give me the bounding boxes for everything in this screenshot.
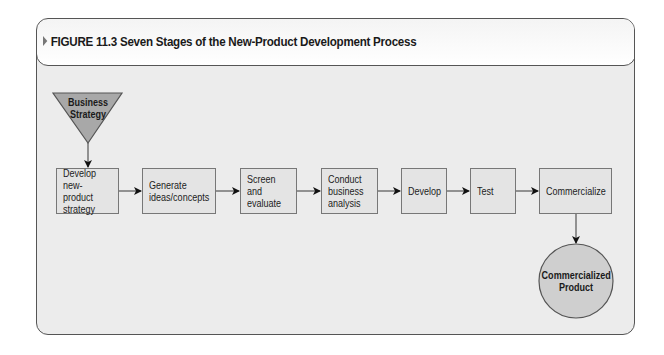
- stage-label: Commercialize: [546, 185, 606, 197]
- stage-develop-strategy: Develop new-product strategy: [56, 168, 119, 214]
- stage-generate-ideas: Generate ideas/concepts: [142, 168, 216, 214]
- stage-commercialize: Commercialize: [539, 168, 612, 214]
- stage-label: Test: [477, 185, 494, 197]
- stage-label: Develop new-product strategy: [63, 167, 110, 215]
- stage-label: Develop: [408, 185, 441, 197]
- stage-screen-evaluate: Screen and evaluate: [240, 168, 297, 214]
- stage-label: Generate ideas/concepts: [149, 179, 209, 203]
- commercialized-product-label: Commercialized Product: [542, 269, 611, 293]
- stage-test: Test: [470, 168, 516, 214]
- business-strategy-label: Business Strategy: [62, 96, 114, 120]
- stage-develop: Develop: [401, 168, 447, 214]
- stage-business-analysis: Conduct business analysis: [321, 168, 378, 214]
- stage-label: Screen and evaluate: [247, 173, 289, 209]
- stage-label: Conduct business analysis: [328, 173, 364, 209]
